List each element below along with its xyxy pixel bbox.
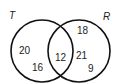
intersection-value: 12 — [55, 52, 67, 63]
t-only-value-1: 20 — [19, 45, 31, 56]
r-only-value-2: 21 — [76, 50, 88, 61]
set-t-label: T — [9, 10, 16, 21]
venn-diagram: T R 20 16 12 18 21 9 — [0, 0, 117, 84]
t-only-value-2: 16 — [32, 62, 44, 73]
r-only-value-1: 18 — [77, 25, 89, 36]
set-r-label: R — [103, 11, 110, 22]
r-only-value-3: 9 — [88, 63, 94, 74]
